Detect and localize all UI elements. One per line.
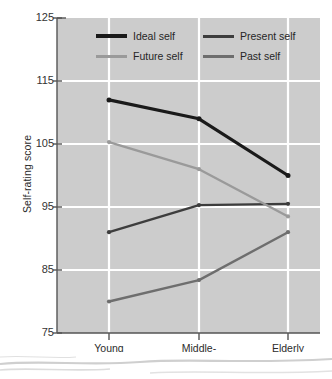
data-point-future-self [107, 140, 111, 144]
chart-legend: Ideal self Present self Future self Past… [96, 30, 311, 70]
y-tick-label: 125 [14, 11, 54, 23]
paper-edge-svg [0, 352, 332, 379]
data-point-present-self [107, 230, 111, 234]
legend-label-future-self: Future self [133, 50, 183, 62]
y-tick-label: 85 [14, 263, 54, 275]
legend-item-present-self: Present self [203, 30, 295, 42]
y-tick-label: 95 [14, 200, 54, 212]
data-point-past-self [286, 230, 290, 234]
data-point-past-self [107, 299, 111, 303]
legend-label-present-self: Present self [240, 30, 295, 42]
data-point-ideal-self [197, 116, 202, 121]
legend-item-past-self: Past self [203, 50, 280, 62]
data-point-future-self [197, 167, 201, 171]
legend-swatch-present-self [203, 35, 234, 38]
legend-swatch-future-self [96, 55, 127, 58]
data-point-ideal-self [107, 97, 112, 102]
legend-item-future-self: Future self [96, 50, 183, 62]
data-point-future-self [286, 214, 290, 218]
legend-label-ideal-self: Ideal self [133, 30, 175, 42]
chart-container: 125115105958575 Self-rating score Younga… [0, 0, 332, 379]
data-point-present-self [197, 203, 201, 207]
y-tick-label: 75 [14, 326, 54, 338]
legend-label-past-self: Past self [240, 50, 280, 62]
data-point-ideal-self [286, 173, 291, 178]
data-point-past-self [197, 278, 201, 282]
y-axis-title: Self-rating score [21, 114, 33, 234]
legend-swatch-past-self [203, 55, 234, 58]
legend-swatch-ideal-self [96, 34, 127, 37]
y-tick-label: 115 [14, 74, 54, 86]
legend-item-ideal-self: Ideal self [96, 30, 175, 42]
y-tick-label: 105 [14, 137, 54, 149]
data-point-present-self [286, 202, 290, 206]
page-edge-artifact [0, 352, 332, 379]
